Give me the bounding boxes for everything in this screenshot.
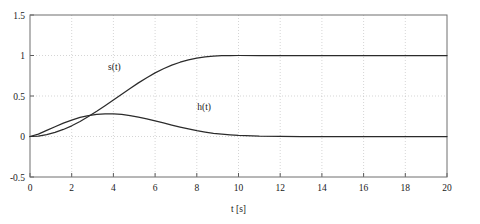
- x-tick-label: 14: [317, 183, 327, 193]
- x-tick-label: 2: [69, 183, 74, 193]
- y-tick-label: 1.5: [13, 11, 25, 21]
- x-tick-label: 8: [194, 183, 199, 193]
- x-tick-label: 16: [359, 183, 369, 193]
- y-tick-label: 1: [20, 51, 25, 61]
- x-tick-label: 4: [111, 183, 116, 193]
- x-tick-label: 0: [28, 183, 33, 193]
- x-tick-label: 18: [401, 183, 411, 193]
- x-tick-label: 20: [442, 183, 452, 193]
- x-axis-title: t [s]: [231, 204, 246, 214]
- x-tick-label: 10: [234, 183, 244, 193]
- y-tick-label: 0.5: [13, 92, 25, 102]
- curve-annotation-st: s(t): [108, 62, 121, 73]
- x-tick-label: 12: [275, 183, 285, 193]
- x-tick-label: 6: [153, 183, 158, 193]
- chart-svg: 02468101214161820 -0.500.511.5 s(t)h(t) …: [0, 0, 480, 224]
- y-tick-labels: -0.500.511.5: [10, 11, 25, 183]
- figure-container: 02468101214161820 -0.500.511.5 s(t)h(t) …: [0, 0, 480, 224]
- y-tick-label: 0: [20, 132, 25, 142]
- curve-annotation-ht: h(t): [197, 102, 211, 113]
- x-tick-labels: 02468101214161820: [28, 183, 452, 193]
- y-tick-label: -0.5: [10, 173, 25, 183]
